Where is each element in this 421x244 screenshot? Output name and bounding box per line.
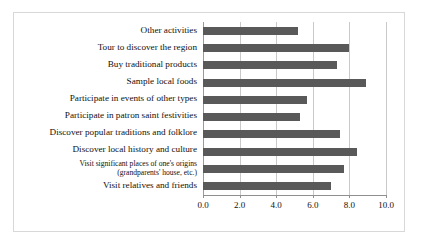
plot-area	[203, 22, 386, 195]
category-label: Buy traditional products	[14, 56, 201, 73]
category-label: Discover local history and culture	[14, 142, 201, 159]
bar	[203, 79, 366, 87]
category-label: Other activities	[14, 22, 201, 39]
x-tick-label: 10.0	[378, 200, 394, 210]
x-tick-label: 4.0	[271, 200, 282, 210]
x-axis-tick-labels: 0.0 2.0 4.0 6.0 8.0 10.0	[203, 200, 386, 214]
x-axis-tick	[349, 195, 350, 198]
bar-row	[203, 39, 386, 56]
bar-row	[203, 91, 386, 108]
bar	[203, 148, 357, 156]
bar	[203, 27, 298, 35]
bar-row	[203, 160, 386, 177]
bar	[203, 113, 300, 121]
bar-row	[203, 74, 386, 91]
category-axis-labels: Other activities Tour to discover the re…	[14, 22, 201, 195]
chart-container: Other activities Tour to discover the re…	[13, 12, 405, 232]
bar-row	[203, 57, 386, 74]
category-label: Sample local foods	[14, 73, 201, 90]
x-axis-tick	[386, 195, 387, 198]
bar-row	[203, 178, 386, 195]
bar	[203, 44, 349, 52]
category-label: Visit relatives and friends	[14, 178, 201, 195]
category-label: Visit significant places of one's origin…	[14, 159, 201, 178]
x-axis-tick	[276, 195, 277, 198]
category-label: Participate in patron saint festivities	[14, 108, 201, 125]
bar	[203, 165, 344, 173]
bar-row	[203, 108, 386, 125]
x-tick-label: 6.0	[307, 200, 318, 210]
bar-row	[203, 143, 386, 160]
x-axis-tick	[240, 195, 241, 198]
bar	[203, 96, 307, 104]
plot-wrapper: Other activities Tour to discover the re…	[14, 13, 404, 231]
x-axis-line	[203, 195, 386, 196]
category-label: Discover popular traditions and folklore	[14, 125, 201, 142]
category-label: Tour to discover the region	[14, 39, 201, 56]
x-tick-label: 0.0	[197, 200, 208, 210]
x-tick-label: 8.0	[344, 200, 355, 210]
bar-series	[203, 22, 386, 195]
bar-row	[203, 126, 386, 143]
x-axis-tick	[203, 195, 204, 198]
category-label: Participate in events of other types	[14, 90, 201, 107]
x-tick-label: 2.0	[234, 200, 245, 210]
bar	[203, 61, 337, 69]
bar-row	[203, 22, 386, 39]
gridline-10	[386, 22, 387, 195]
x-axis-tick	[313, 195, 314, 198]
bar	[203, 130, 340, 138]
bar	[203, 182, 331, 190]
